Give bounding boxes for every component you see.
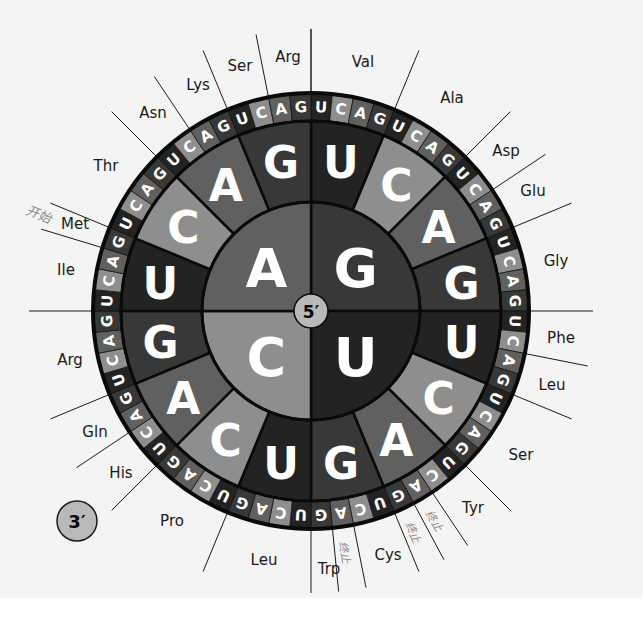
amino-acid-label-pro: Pro: [160, 512, 184, 530]
amino-acid-label-trp: Trp: [318, 560, 341, 578]
amino-acid-label-thr: Thr: [94, 157, 119, 175]
second-base-letter: G: [443, 258, 479, 309]
first-base-letter: C: [246, 326, 286, 389]
amino-acid-label-ser: Ser: [509, 446, 534, 464]
second-base-letter: C: [210, 415, 242, 466]
first-base-letter: U: [334, 326, 378, 389]
first-base-letter: G: [334, 237, 378, 300]
first-base-letter: A: [245, 237, 287, 300]
diagram-background: UCAGUCAGUCAGUCAGUCAGUCAGUCAGUCAGUCAGUCAG…: [0, 0, 643, 598]
third-base-letter: U: [505, 314, 524, 327]
second-base-letter: G: [142, 317, 178, 368]
amino-acid-label-his: His: [109, 464, 132, 482]
amino-acid-label-leu: Leu: [539, 376, 566, 394]
second-base-letter: U: [263, 438, 299, 489]
codon-divider-line: [512, 203, 571, 227]
second-base-letter: C: [167, 202, 199, 253]
second-base-letter: A: [422, 202, 456, 253]
amino-acid-label-glu: Glu: [520, 182, 545, 200]
second-base-letter: C: [380, 160, 412, 211]
third-base-letter: U: [98, 294, 117, 307]
codon-divider-line: [50, 394, 109, 418]
amino-acid-label-gly: Gly: [544, 252, 569, 270]
second-base-letter: A: [166, 373, 200, 424]
third-base-letter: G: [98, 314, 117, 327]
codon-divider-line: [354, 525, 366, 588]
codon-wheel: UCAGUCAGUCAGUCAGUCAGUCAGUCAGUCAGUCAGUCAG…: [0, 0, 643, 598]
second-base-letter: A: [209, 160, 243, 211]
amino-acid-label-cys: Cys: [374, 546, 401, 564]
codon-divider-line: [512, 394, 571, 418]
three-prime-label: 3′: [68, 511, 86, 532]
amino-acid-label-met: Met: [61, 215, 89, 233]
second-base-letter: U: [143, 258, 179, 309]
codon-divider-line: [256, 34, 268, 97]
five-prime-marker: 5′: [294, 294, 328, 328]
amino-acid-label-ser: Ser: [228, 57, 253, 75]
amino-acid-label-ala: Ala: [440, 89, 464, 107]
second-base-letter: G: [323, 438, 359, 489]
third-base-letter: U: [294, 505, 307, 524]
amino-acid-label-asp: Asp: [492, 142, 520, 160]
codon-divider-line: [525, 354, 588, 366]
codon-divider-line: [394, 50, 418, 109]
amino-acid-label-phe: Phe: [547, 329, 575, 347]
amino-acid-label-val: Val: [352, 53, 374, 71]
third-base-letter: U: [314, 98, 327, 117]
second-base-letter: A: [379, 415, 413, 466]
third-base-letter: G: [505, 294, 524, 307]
amino-acid-label-ile: Ile: [57, 261, 75, 279]
third-base-letter: G: [314, 505, 327, 524]
amino-acid-label-arg: Arg: [57, 351, 83, 369]
codon-divider-line: [203, 512, 227, 571]
amino-acid-label-tyr: Tyr: [462, 499, 484, 517]
second-base-letter: C: [422, 373, 454, 424]
five-prime-label: 5′: [303, 302, 320, 322]
second-base-letter: U: [323, 137, 359, 188]
amino-acid-label-gln: Gln: [82, 423, 107, 441]
amino-acid-label-arg: Arg: [275, 48, 301, 66]
amino-acid-label-asn: Asn: [139, 104, 167, 122]
third-base-letter: G: [294, 98, 307, 117]
second-base-letter: U: [444, 317, 480, 368]
three-prime-marker: 3′: [57, 501, 97, 541]
amino-acid-label-leu: Leu: [251, 551, 278, 569]
amino-acid-label-lys: Lys: [186, 76, 210, 94]
second-base-letter: G: [263, 137, 299, 188]
